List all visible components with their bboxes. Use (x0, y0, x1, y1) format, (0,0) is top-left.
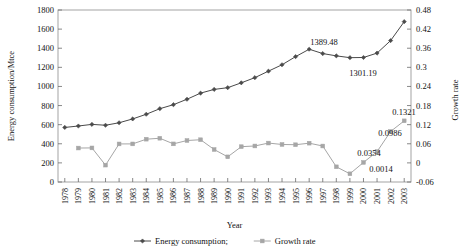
y-axis-tick-label: 200 (41, 158, 54, 168)
series-marker (90, 146, 94, 150)
data-label: 1301.19 (349, 68, 377, 78)
y-axis-tick-label: 1600 (37, 24, 54, 34)
chart-figure: 020040060080010001200140016001800-0.0600… (0, 0, 468, 250)
series-marker (76, 124, 80, 128)
x-axis-tick-label: 1999 (346, 188, 355, 204)
series-marker (307, 141, 311, 145)
series-marker (158, 136, 162, 140)
y-axis-tick-label: 400 (41, 139, 54, 149)
series-marker (226, 155, 230, 159)
series-marker (172, 142, 176, 146)
x-axis-tick-label: 1998 (332, 188, 341, 204)
legend-label-1: Energy consumption; (155, 236, 228, 246)
series-marker (253, 76, 257, 80)
x-axis-tick-label: 1991 (237, 188, 246, 204)
x-axis-tick-label: 1978 (61, 188, 70, 204)
x-axis-tick-label: 1982 (115, 188, 124, 204)
x-axis-tick-label: 1981 (102, 188, 111, 204)
x-axis-tick-label: 1988 (197, 188, 206, 204)
data-label: 0.0014 (369, 164, 393, 174)
series-marker (198, 91, 202, 95)
y2-axis-tick-label: 0.06 (416, 139, 431, 149)
y2-axis-tick-label: 0.12 (416, 120, 431, 130)
series-marker (267, 141, 271, 145)
series-marker (402, 119, 406, 123)
series-marker (280, 143, 284, 147)
series-marker (185, 97, 189, 101)
x-axis-tick-label: 2000 (359, 188, 368, 204)
series-marker (212, 148, 216, 152)
series-marker (253, 144, 257, 148)
x-axis-tick-label: 1992 (251, 188, 260, 204)
x-axis-tick-label: 2003 (400, 188, 409, 204)
x-axis-tick-label: 2002 (387, 188, 396, 204)
y2-axis-tick-label: 0.3 (416, 62, 427, 72)
x-axis-tick-label: 1987 (183, 188, 192, 204)
series-marker (158, 107, 162, 111)
y2-axis-title: Growth rate (450, 79, 460, 120)
y-axis-tick-label: 1200 (37, 62, 54, 72)
series-marker (76, 146, 80, 150)
y2-axis-tick-label: 0.18 (416, 101, 431, 111)
series-marker (334, 165, 338, 169)
y-axis-tick-label: 0 (50, 177, 54, 187)
y2-axis-tick-label: 0.36 (416, 43, 431, 53)
legend-marker-2 (260, 239, 264, 243)
x-axis-tick-label: 1983 (129, 188, 138, 204)
series-marker (280, 63, 284, 67)
y2-axis-tick-label: 0 (416, 158, 420, 168)
series-marker (321, 51, 325, 55)
x-axis-tick-label: 1979 (74, 188, 83, 204)
series-marker (239, 81, 243, 85)
series-marker (362, 161, 366, 165)
x-axis-tick-label: 2001 (373, 188, 382, 204)
series-marker (307, 47, 311, 51)
x-axis-tick-label: 1994 (278, 188, 287, 204)
y-axis-tick-label: 1800 (37, 5, 54, 15)
dual-axis-line-chart: 020040060080010001200140016001800-0.0600… (0, 0, 468, 250)
series-marker (117, 142, 121, 146)
series-marker (212, 87, 216, 91)
series-marker (199, 138, 203, 142)
series-marker (348, 172, 352, 176)
series-marker (117, 121, 121, 125)
series-marker (144, 112, 148, 116)
x-axis-tick-label: 1995 (292, 188, 301, 204)
data-label: 0.1321 (392, 107, 415, 117)
series-marker (293, 55, 297, 59)
x-axis-tick-label: 1986 (169, 188, 178, 204)
y2-axis-tick-label: 0.42 (416, 24, 431, 34)
series-marker (226, 86, 230, 90)
y2-axis-tick-label: 0.48 (416, 5, 431, 15)
x-axis-title: Year (227, 220, 243, 230)
series-marker (171, 103, 175, 107)
data-label: 0.0354 (357, 148, 381, 158)
series-marker (103, 123, 107, 127)
series-marker (104, 163, 108, 167)
data-label: 1389.48 (310, 37, 338, 47)
series-marker (185, 139, 189, 143)
series-marker (361, 55, 365, 59)
y-axis-title: Energy consumption/Mtce (6, 51, 16, 141)
x-axis-tick-label: 1984 (142, 188, 151, 204)
y-axis-tick-label: 600 (41, 120, 54, 130)
x-axis-tick-label: 1997 (319, 188, 328, 204)
x-axis-tick-label: 1996 (305, 188, 314, 204)
series-marker (239, 145, 243, 149)
y2-axis-tick-label: -0.06 (416, 177, 434, 187)
x-axis-tick-label: 1980 (88, 188, 97, 204)
x-axis-tick-label: 1993 (264, 188, 273, 204)
x-axis-tick-label: 1989 (210, 188, 219, 204)
series-marker (144, 137, 148, 141)
series-marker (131, 142, 135, 146)
series-marker (90, 122, 94, 126)
series-marker (321, 144, 325, 148)
y2-axis-tick-label: 0.24 (416, 81, 432, 91)
series-marker (266, 69, 270, 73)
legend-label-2: Growth rate (275, 236, 316, 246)
data-label: 0.0986 (378, 128, 401, 138)
y-axis-tick-label: 1000 (37, 81, 54, 91)
series-marker (131, 117, 135, 121)
x-axis-tick-label: 1985 (156, 188, 165, 204)
legend-marker-1 (140, 239, 144, 243)
